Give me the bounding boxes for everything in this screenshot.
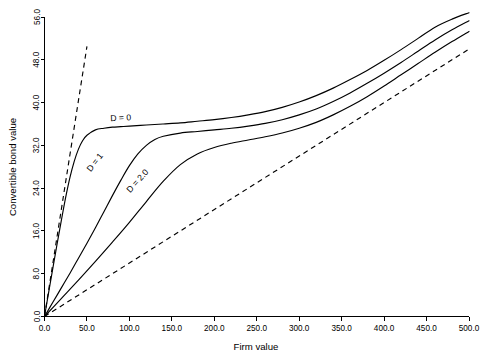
y-tick-label: 24.0 [33,180,42,196]
x-tick-label: 100.0 [119,324,140,333]
y-tick-label: 56.0 [33,9,42,25]
convertible-bond-value-plot: 0.050.0100.0150.0200.0250.0300.0350.0400… [0,0,483,358]
y-tick-label: 8.0 [33,268,42,280]
x-axis-title: Firm value [234,341,279,352]
series-curve-steep-dashed-reference [45,46,87,316]
x-tick-label: 300.0 [289,324,310,333]
x-tick-label: 150.0 [162,324,183,333]
x-tick-label: 350.0 [331,324,352,333]
x-tick-label: 450.0 [416,324,437,333]
series-paths-group [45,13,470,317]
series-curve-d-0 [45,13,470,317]
y-tick-label: 32.0 [33,137,42,153]
series-curve-d-2-0 [45,31,470,316]
series-curve-d-1 [45,21,470,317]
y-axis-ticks: 0.08.016.024.032.040.048.056.0 [33,9,45,323]
x-tick-label: 200.0 [204,324,225,333]
y-tick-label: 40.0 [33,94,42,110]
y-tick-label: 16.0 [33,223,42,239]
x-axis-ticks: 0.050.0100.0150.0200.0250.0300.0350.0400… [39,317,480,333]
series-label-d-0: D = 0 [110,112,131,123]
y-tick-label: 0.0 [33,310,42,322]
x-tick-label: 250.0 [247,324,268,333]
series-curve-lower-dashed-reference [45,49,470,316]
x-tick-label: 50.0 [79,324,95,333]
axes-group [45,17,470,317]
x-tick-label: 0.0 [39,324,51,333]
x-tick-label: 500.0 [459,324,480,333]
y-tick-label: 48.0 [33,51,42,67]
x-tick-label: 400.0 [374,324,395,333]
chart-figure: 0.050.0100.0150.0200.0250.0300.0350.0400… [0,0,483,358]
y-axis-title: Convertible bond value [7,118,18,216]
